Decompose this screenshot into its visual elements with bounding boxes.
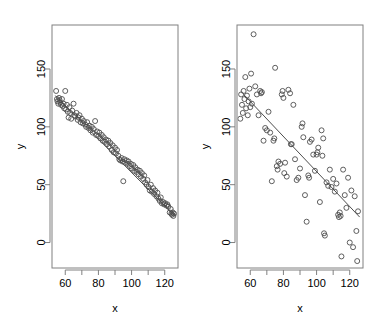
- data-point: [243, 75, 248, 80]
- data-point: [299, 124, 304, 129]
- data-point: [301, 135, 306, 140]
- data-point: [121, 179, 126, 184]
- x-tick-label: 120: [156, 277, 174, 289]
- data-point: [266, 109, 271, 114]
- x-tick-label: 80: [277, 277, 289, 289]
- data-point: [261, 138, 266, 143]
- data-point: [320, 153, 325, 158]
- y-axis-title: y: [14, 143, 26, 149]
- data-point: [253, 84, 258, 89]
- data-point: [302, 193, 307, 198]
- y-tick-label: 150: [220, 60, 232, 78]
- data-point: [247, 86, 252, 91]
- y-tick-label: 0: [35, 239, 47, 245]
- y-tick-label: 0: [220, 239, 232, 245]
- data-point: [245, 113, 250, 118]
- data-point: [319, 128, 324, 133]
- x-axis-title: x: [297, 302, 303, 314]
- figure-canvas: 6080100120050100150xy 608010012005010015…: [0, 0, 370, 332]
- data-point: [347, 240, 352, 245]
- data-point: [71, 101, 76, 106]
- x-tick-label: 100: [307, 277, 325, 289]
- x-tick-label: 60: [244, 277, 256, 289]
- scatter-plot-right: 6080100120050100150xy: [185, 0, 370, 332]
- data-point: [334, 181, 339, 186]
- y-tick-label: 100: [35, 118, 47, 136]
- data-point: [344, 205, 349, 210]
- y-tick-label: 100: [220, 118, 232, 136]
- data-point: [349, 188, 354, 193]
- x-tick-label: 60: [59, 277, 71, 289]
- x-tick-label: 100: [122, 277, 140, 289]
- y-tick-label: 50: [35, 179, 47, 191]
- data-point: [332, 189, 337, 194]
- data-point: [269, 179, 274, 184]
- data-point: [275, 167, 280, 172]
- data-point: [282, 171, 287, 176]
- data-point: [352, 194, 357, 199]
- data-point: [321, 136, 326, 141]
- data-point: [293, 157, 298, 162]
- data-point: [273, 65, 278, 70]
- plot-panel-left: 6080100120050100150xy: [0, 0, 185, 332]
- data-point: [241, 88, 246, 93]
- data-point: [240, 110, 245, 115]
- data-layer: [54, 88, 177, 218]
- data-point: [339, 254, 344, 259]
- data-point: [238, 116, 243, 121]
- x-axis-title: x: [112, 302, 118, 314]
- data-point: [327, 167, 332, 172]
- y-tick-label: 150: [35, 60, 47, 78]
- data-point: [239, 102, 244, 107]
- data-point: [304, 219, 309, 224]
- y-axis-title: y: [199, 143, 211, 149]
- data-point: [351, 245, 356, 250]
- data-point: [341, 167, 346, 172]
- data-point: [298, 166, 303, 171]
- data-point: [54, 88, 59, 93]
- data-point: [291, 102, 296, 107]
- data-layer: [238, 32, 361, 264]
- data-point: [283, 160, 288, 165]
- plot-panel-right: 6080100120050100150xy: [185, 0, 370, 332]
- data-point: [355, 259, 360, 264]
- data-point: [316, 145, 321, 150]
- data-point: [284, 174, 289, 179]
- x-tick-label: 80: [92, 277, 104, 289]
- data-point: [317, 200, 322, 205]
- x-tick-label: 120: [341, 277, 359, 289]
- data-point: [251, 32, 256, 37]
- data-point: [331, 176, 336, 181]
- data-point: [256, 113, 261, 118]
- data-point: [249, 71, 254, 76]
- data-point: [356, 209, 361, 214]
- data-point: [300, 121, 305, 126]
- regression-line: [244, 94, 360, 217]
- data-point: [93, 119, 98, 124]
- plot-frame: [237, 25, 363, 268]
- data-point: [346, 175, 351, 180]
- data-point: [63, 88, 68, 93]
- data-point: [280, 88, 285, 93]
- y-tick-label: 50: [220, 179, 232, 191]
- data-point: [354, 228, 359, 233]
- scatter-plot-left: 6080100120050100150xy: [0, 0, 185, 332]
- data-point: [239, 92, 244, 97]
- data-point: [342, 193, 347, 198]
